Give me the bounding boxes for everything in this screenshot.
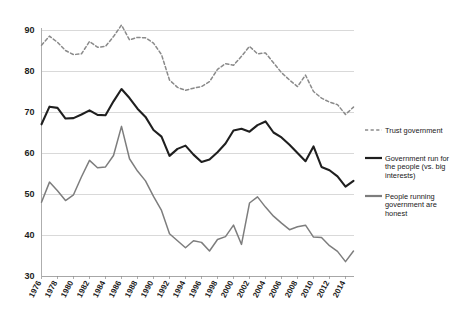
gridlines [42, 30, 354, 276]
x-tick-label: 1978 [43, 279, 60, 299]
y-tick-label: 30 [24, 271, 34, 281]
series-line-0 [42, 25, 354, 114]
x-tick-label: 2010 [299, 279, 316, 299]
legend-item[interactable]: Government run forthe people (vs. bigint… [365, 154, 450, 180]
x-tick-label: 1986 [107, 279, 124, 299]
x-tick-label: 2008 [283, 279, 300, 299]
y-tick-label: 50 [24, 189, 34, 199]
x-tick-label: 1976 [27, 279, 44, 299]
x-tick-label: 2014 [331, 279, 348, 299]
legend-label: Trust government [385, 126, 443, 135]
x-tick-label: 1992 [155, 279, 172, 299]
x-tick-label: 2012 [315, 279, 332, 299]
x-tick-label: 1990 [139, 279, 156, 299]
legend-item[interactable]: Trust government [365, 126, 443, 135]
legend-label: honest [385, 209, 407, 218]
chart-container: 30405060708090 1976197819801982198419861… [0, 0, 459, 320]
x-tick-label: 1984 [91, 279, 108, 299]
chart-legend: Trust governmentGovernment run forthe pe… [365, 126, 450, 218]
y-tick-label: 80 [24, 66, 34, 76]
x-axis-tick-labels: 1976197819801982198419861988199019921994… [27, 279, 348, 299]
x-tick-label: 1980 [59, 279, 76, 299]
legend-item[interactable]: People runninggovernment arehonest [365, 192, 437, 218]
x-tick-label: 2002 [235, 279, 252, 299]
y-axis-tick-labels: 30405060708090 [24, 25, 34, 281]
y-tick-label: 60 [24, 148, 34, 158]
y-tick-label: 40 [24, 230, 34, 240]
x-tick-label: 2000 [219, 279, 236, 299]
y-tick-label: 70 [24, 107, 34, 117]
x-tick-label: 2006 [267, 279, 284, 299]
x-tick-label: 2004 [251, 279, 268, 299]
x-tick-label: 1996 [187, 279, 204, 299]
y-tick-label: 90 [24, 25, 34, 35]
x-tick-label: 1998 [203, 279, 220, 299]
legend-label: interests) [385, 171, 415, 180]
x-tick-label: 1982 [75, 279, 92, 299]
x-tick-label: 1994 [171, 279, 188, 299]
series-line-1 [42, 89, 354, 187]
line-chart: 30405060708090 1976197819801982198419861… [0, 0, 459, 320]
x-axis [42, 276, 354, 279]
data-series-group [42, 25, 354, 262]
x-tick-label: 1988 [123, 279, 140, 299]
